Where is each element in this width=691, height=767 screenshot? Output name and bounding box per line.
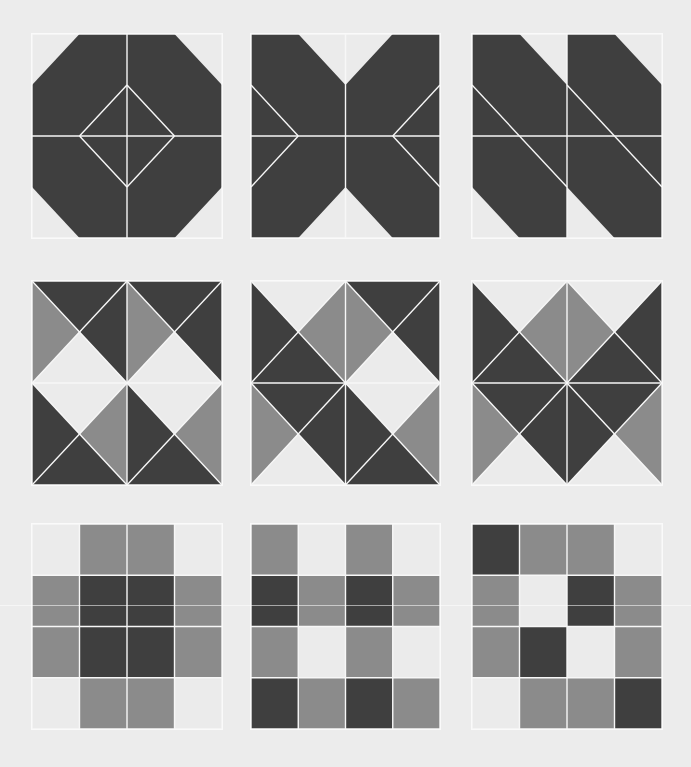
grid-cell-light [175,524,223,575]
diagonal-grid-block [472,524,662,729]
grid-cell-mid [346,627,393,678]
grid-cell-mid [567,678,615,729]
grid-cell-dark [80,575,128,626]
grid-cell-mid [472,575,520,626]
grid-cell-mid [298,575,345,626]
grid-cell-mid [393,575,440,626]
grid-cell-light [175,678,223,729]
grid-cell-mid [615,627,663,678]
grid-cell-light [32,524,80,575]
star-hourglass-block [472,281,662,485]
grid-cell-mid [80,678,128,729]
pinwheel-hourglass-block [32,281,222,485]
grid-cell-light [298,524,345,575]
grid-cell-dark [251,678,298,729]
grid-cell-mid [127,524,175,575]
grid-cell-mid [251,524,298,575]
grid-cell-dark [615,678,663,729]
grid-cell-mid [175,575,223,626]
grid-cell-mid [251,627,298,678]
grid-cell-light [298,627,345,678]
grid-cell-mid [346,524,393,575]
cross-grid-block [32,524,222,729]
figure-title: Geometric quilt block patterns [0,21,1,22]
checker-grid-block [251,524,440,729]
grid-cell-dark [346,678,393,729]
grid-cell-dark [127,575,175,626]
grid-cell-mid [393,678,440,729]
grid-cell-dark [251,575,298,626]
mixed-hourglass-block [251,281,440,485]
grid-cell-light [393,627,440,678]
grid-cell-light [393,524,440,575]
grid-cell-mid [472,627,520,678]
grid-cell-light [567,627,615,678]
grid-cell-mid [80,524,128,575]
scan-artifact-line [0,605,691,606]
grid-cell-mid [32,627,80,678]
octagon-diamond-block [32,34,222,238]
grid-cell-mid [520,524,568,575]
grid-cell-dark [472,524,520,575]
grid-cell-mid [175,627,223,678]
grid-cell-mid [615,575,663,626]
grid-cell-dark [567,575,615,626]
grid-cell-mid [298,678,345,729]
diagonal-stripe-block [472,34,662,238]
grid-cell-dark [520,627,568,678]
grid-cell-mid [32,575,80,626]
grid-cell-light [520,575,568,626]
grid-cell-dark [127,627,175,678]
hourglass-x-block [251,34,440,238]
grid-cell-mid [520,678,568,729]
grid-cell-dark [346,575,393,626]
grid-cell-mid [567,524,615,575]
grid-cell-mid [127,678,175,729]
grid-cell-light [472,678,520,729]
grid-cell-dark [80,627,128,678]
grid-cell-light [615,524,663,575]
grid-cell-light [32,678,80,729]
